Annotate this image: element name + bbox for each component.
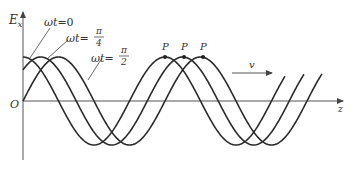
point-p-3: [201, 55, 205, 59]
svg-text:π: π: [120, 45, 128, 55]
svg-text:2: 2: [120, 57, 127, 67]
svg-text:ωt=: ωt=: [91, 52, 114, 65]
svg-text:4: 4: [95, 38, 102, 48]
leader-line-t-pi-4: [48, 40, 68, 58]
point-p-1: [163, 55, 167, 59]
point-p-label-2: P: [180, 41, 188, 52]
point-p-label-3: P: [199, 41, 207, 52]
point-p-label-1: P: [161, 41, 169, 52]
origin-label: O: [10, 98, 19, 111]
wave-diagram: Ex O z ωt=0 ωt= π 4 ωt= π 2 P P P v: [0, 0, 355, 171]
leader-line-t0: [30, 28, 50, 58]
velocity-label: v: [249, 59, 255, 70]
z-axis-label: z: [337, 104, 343, 114]
curve-label-t-pi-4: ωt= π 4: [66, 26, 104, 48]
point-p-2: [182, 55, 186, 59]
curve-label-t0: ωt=0: [44, 16, 74, 29]
svg-text:π: π: [95, 26, 103, 36]
svg-text:ωt=: ωt=: [66, 32, 89, 45]
curve-label-t-pi-2: ωt= π 2: [91, 45, 129, 67]
y-axis-label: Ex: [8, 13, 23, 29]
